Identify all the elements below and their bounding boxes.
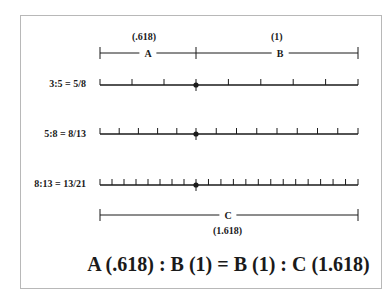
ruler-row <box>100 179 358 191</box>
row-label-8-13: 8:13 = 13/21 <box>34 178 86 189</box>
segment-c-value: (1.618) <box>213 225 242 236</box>
ruler-row <box>100 79 358 91</box>
segment-b-value: (1) <box>271 31 283 42</box>
segment-b-letter: B <box>272 48 289 59</box>
division-rows <box>100 79 358 191</box>
ruler-row <box>100 128 358 140</box>
segment-a-letter: A <box>139 48 156 59</box>
golden-point-marker <box>193 131 198 136</box>
segment-c-letter: C <box>219 210 236 221</box>
golden-point-marker <box>193 182 198 187</box>
golden-ratio-equation: A (.618) : B (1) = B (1) : C (1.618) <box>0 253 392 276</box>
golden-point-marker <box>193 82 198 87</box>
row-label-3-5: 3:5 = 5/8 <box>49 78 86 89</box>
segment-a-value: (.618) <box>132 31 156 42</box>
row-label-5-8: 5:8 = 8/13 <box>44 128 86 139</box>
